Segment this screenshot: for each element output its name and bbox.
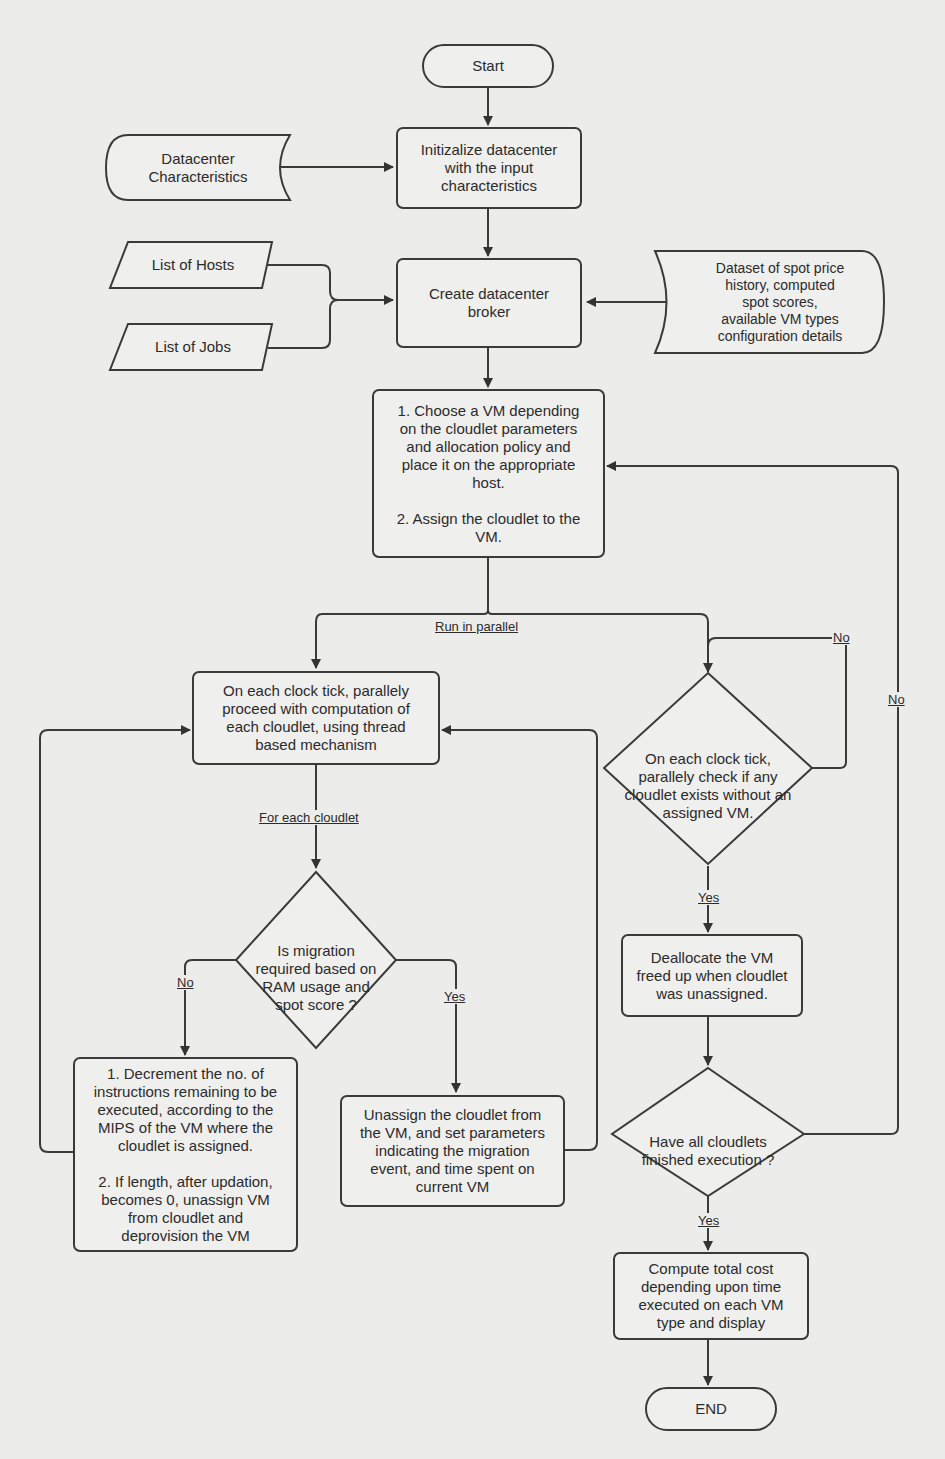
unassign-cloudlet-node: Unassign the cloudlet from the VM, and s…	[340, 1095, 565, 1207]
create-broker-node: Create datacenter broker	[396, 258, 582, 348]
compute-each-cloudlet-label: On each clock tick, parallely proceed wi…	[222, 682, 410, 754]
migration-decision-label: Is migration required based on RAM usage…	[256, 942, 377, 1013]
all-finished-node: Have all cloudlets finished execution ?	[620, 1115, 796, 1169]
check-unassigned-label: On each clock tick, parallely check if a…	[625, 750, 792, 821]
list-of-jobs-node: List of Jobs	[118, 326, 268, 368]
end-label: END	[695, 1400, 727, 1418]
list-of-jobs-label: List of Jobs	[155, 338, 231, 356]
list-of-hosts-node: List of Hosts	[118, 244, 268, 286]
dataset-node: Dataset of spot price history, computed …	[680, 254, 880, 350]
all-finished-label: Have all cloudlets finished execution ?	[642, 1133, 775, 1168]
migration-no-label: No	[176, 975, 195, 990]
check-yes-label: Yes	[697, 890, 720, 905]
create-broker-label: Create datacenter broker	[429, 285, 549, 321]
datacenter-characteristics-label: Datacenter Characteristics	[148, 150, 247, 186]
finished-yes-label: Yes	[697, 1213, 720, 1228]
start-label: Start	[472, 57, 504, 75]
migration-yes-label: Yes	[443, 989, 466, 1004]
migration-decision-node: Is migration required based on RAM usage…	[236, 924, 396, 1014]
finished-no-label: No	[887, 692, 906, 707]
deallocate-vm-label: Deallocate the VM freed up when cloudlet…	[637, 949, 788, 1003]
compute-total-cost-node: Compute total cost depending upon time e…	[613, 1252, 809, 1340]
initialize-datacenter-label: Initizalize datacenter with the input ch…	[421, 141, 558, 195]
end-terminal: END	[645, 1387, 777, 1431]
dataset-label: Dataset of spot price history, computed …	[716, 260, 844, 345]
compute-each-cloudlet-node: On each clock tick, parallely proceed wi…	[192, 671, 440, 765]
check-no-label: No	[832, 630, 851, 645]
run-in-parallel-label: Run in parallel	[434, 619, 519, 634]
start-terminal: Start	[422, 44, 554, 88]
compute-total-cost-label: Compute total cost depending upon time e…	[638, 1260, 783, 1332]
for-each-cloudlet-label: For each cloudlet	[258, 810, 360, 825]
choose-vm-label: 1. Choose a VM depending on the cloudlet…	[397, 402, 580, 546]
choose-vm-node: 1. Choose a VM depending on the cloudlet…	[372, 389, 605, 558]
deallocate-vm-node: Deallocate the VM freed up when cloudlet…	[621, 934, 803, 1017]
initialize-datacenter-node: Initizalize datacenter with the input ch…	[396, 127, 582, 209]
datacenter-characteristics-node: Datacenter Characteristics	[118, 140, 278, 196]
decrement-instructions-label: 1. Decrement the no. of instructions rem…	[94, 1065, 277, 1245]
unassign-cloudlet-label: Unassign the cloudlet from the VM, and s…	[360, 1106, 545, 1196]
list-of-hosts-label: List of Hosts	[152, 256, 235, 274]
check-unassigned-node: On each clock tick, parallely check if a…	[608, 732, 808, 822]
decrement-instructions-node: 1. Decrement the no. of instructions rem…	[73, 1057, 298, 1252]
